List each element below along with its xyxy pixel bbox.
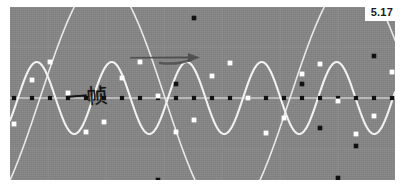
axis-sample-dot-10 (192, 96, 196, 100)
curve-sample-dot-0 (12, 122, 17, 127)
alias-sample-dot-7 (354, 144, 359, 149)
alias-sample-dot-2 (192, 16, 197, 21)
axis-sample-dot-6 (120, 96, 124, 100)
axis-sample-dot-16 (300, 96, 304, 100)
curve-sample-dot-9 (174, 130, 179, 135)
axis-sample-dot-21 (390, 96, 394, 100)
alias-sample-dot-5 (318, 126, 323, 131)
axis-sample-dot-9 (174, 96, 178, 100)
curve-sample-dot-6 (120, 76, 125, 81)
axis-sample-dot-12 (228, 96, 232, 100)
axis-sample-dot-20 (372, 96, 376, 100)
curve-sample-dot-8 (156, 94, 161, 99)
curve-sample-dot-18 (336, 99, 341, 104)
curve-sample-dot-17 (318, 62, 323, 67)
curve-sample-dot-1 (30, 78, 35, 83)
curve-sample-dot-12 (228, 61, 233, 66)
curve-sample-dot-7 (138, 60, 143, 65)
axis-sample-dot-15 (282, 96, 286, 100)
axis-sample-dot-7 (138, 96, 142, 100)
curve-sample-dot-16 (300, 72, 305, 77)
alias-sample-dot-1 (174, 82, 179, 87)
curve-sample-dot-11 (210, 74, 215, 79)
alias-sample-dot-8 (372, 54, 377, 59)
axis-sample-dot-11 (210, 96, 214, 100)
axis-sample-dot-0 (12, 96, 16, 100)
alias-sample-dot-0 (156, 178, 161, 180)
plot-area: 一帧 (10, 7, 395, 180)
curve-sample-dot-2 (48, 60, 53, 65)
curve-sample-dot-13 (246, 96, 251, 101)
axis-sample-dot-14 (264, 96, 268, 100)
alias-sample-dot-4 (300, 82, 305, 87)
curve-sample-dot-19 (354, 132, 359, 137)
alias-sample-dot-6 (336, 176, 341, 180)
axis-sample-dot-17 (318, 96, 322, 100)
axis-sample-dot-1 (30, 96, 34, 100)
curve-sample-dot-4 (84, 130, 89, 135)
curve-sample-dot-10 (192, 118, 197, 123)
curve-sample-dot-14 (264, 131, 269, 136)
curve-sample-dot-15 (282, 116, 287, 121)
figure-number-label: 5.17 (365, 5, 399, 21)
axis-sample-dot-2 (48, 96, 52, 100)
figure-container: 一帧 5.17 (0, 0, 403, 190)
axis-sample-dot-19 (354, 96, 358, 100)
curve-sample-dot-21 (390, 70, 395, 75)
curve-sample-dot-5 (102, 120, 107, 125)
curve-sample-dot-20 (372, 114, 377, 119)
one-frame-annotation: 一帧 (65, 86, 108, 110)
